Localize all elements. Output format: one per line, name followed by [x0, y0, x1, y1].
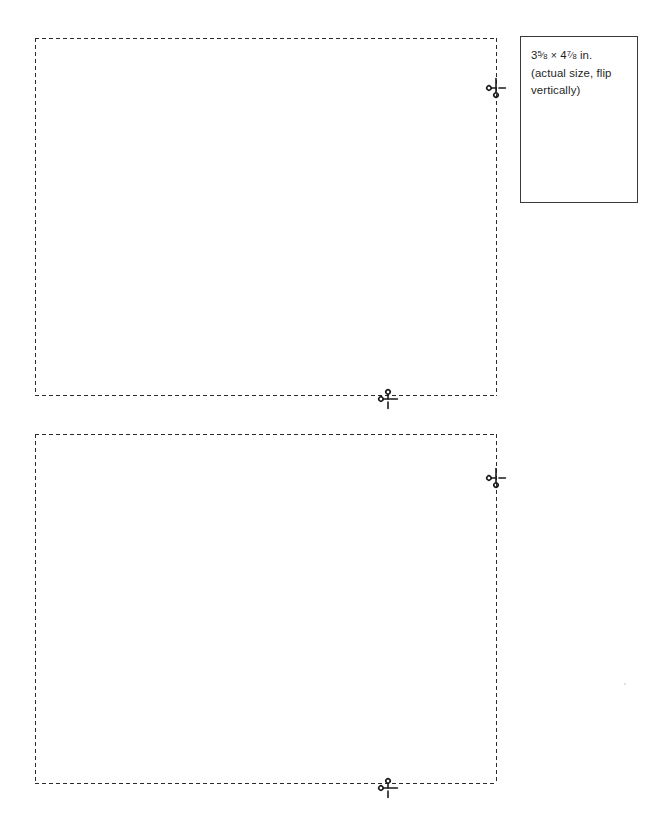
card-cut-area-bottom — [35, 434, 497, 784]
size-fraction-height: 7⁄8 — [567, 52, 577, 61]
card-cut-area-top — [35, 38, 497, 396]
size-callout-box: 35⁄8 × 47⁄8 in. (actual size, flip verti… — [520, 36, 638, 203]
cut-line-bottom — [35, 395, 497, 396]
page-speck — [624, 683, 626, 685]
size-fraction-width: 5⁄8 — [537, 52, 547, 61]
cut-line-bottom — [35, 783, 497, 784]
size-note-line-1: (actual size, flip — [531, 67, 612, 79]
size-unit: in. — [580, 49, 592, 61]
cut-line-top — [35, 38, 497, 39]
printable-sheet: 35⁄8 × 47⁄8 in. (actual size, flip verti… — [0, 0, 672, 839]
cut-line-left — [35, 434, 36, 784]
size-callout-text: 35⁄8 × 47⁄8 in. (actual size, flip verti… — [531, 46, 627, 98]
size-separator: × — [551, 49, 557, 61]
cut-line-top — [35, 434, 497, 435]
cut-line-right — [496, 434, 497, 784]
cut-line-left — [35, 38, 36, 396]
cut-line-right — [496, 38, 497, 396]
size-note-line-2: vertically) — [531, 84, 580, 96]
